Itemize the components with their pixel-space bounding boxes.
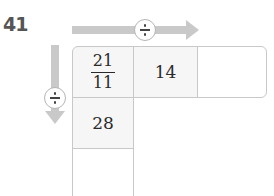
question-number: 41 <box>3 13 27 35</box>
answer-cell-r1-c3[interactable] <box>197 46 267 98</box>
cell-r2-c1: 28 <box>72 97 134 149</box>
divide-bar <box>140 29 150 30</box>
divide-icon-horizontal <box>134 19 156 41</box>
fraction: 21 11 <box>91 53 115 91</box>
fraction-denominator: 11 <box>93 75 113 91</box>
answer-cell-r3-c1[interactable] <box>72 148 134 196</box>
divide-dot-bottom <box>144 33 147 36</box>
divide-dot-top <box>54 92 57 95</box>
down-arrow-icon <box>45 111 65 124</box>
horizontal-arrow-shaft <box>72 26 186 34</box>
fraction-numerator: 21 <box>93 53 113 69</box>
divide-bar <box>50 97 60 98</box>
cell-r1-c2: 14 <box>133 46 198 98</box>
cell-r1-c1: 21 11 <box>72 46 134 98</box>
divide-icon-vertical <box>44 87 66 109</box>
divide-dot-bottom <box>54 101 57 104</box>
divide-dot-top <box>144 24 147 27</box>
right-arrow-icon <box>186 20 199 40</box>
